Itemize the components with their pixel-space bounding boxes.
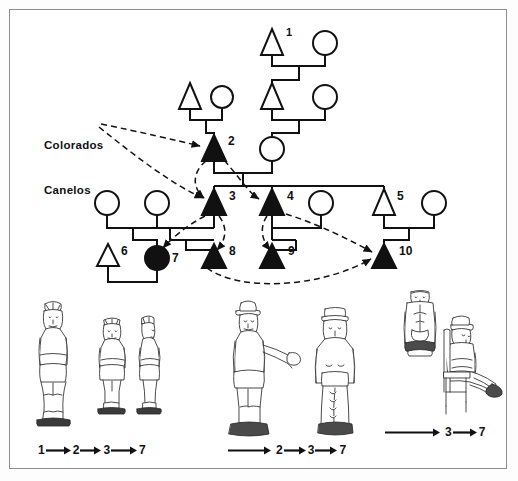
caption-arrow-icon bbox=[284, 445, 307, 456]
figurine-standing-male-hat-arm bbox=[229, 301, 301, 436]
figurine-illustrations bbox=[0, 0, 518, 481]
caption-3-token-0: 3 bbox=[445, 425, 452, 439]
figurine-standing-female-cap bbox=[315, 308, 355, 436]
caption-arrow-icon bbox=[453, 427, 478, 438]
caption-arrow-icon bbox=[80, 445, 102, 456]
caption-1-token-3: 7 bbox=[139, 443, 146, 457]
caption-2-token-2: 7 bbox=[339, 443, 346, 457]
caption-group-2: 2 3 7 bbox=[228, 443, 346, 457]
caption-3-token-1: 7 bbox=[479, 425, 486, 439]
figurine-standing-robed bbox=[404, 291, 436, 357]
caption-lead-arrow-icon bbox=[385, 427, 441, 438]
figurine-standing-female-front bbox=[98, 318, 126, 414]
caption-lead-arrow-icon bbox=[228, 445, 272, 456]
caption-1-token-1: 2 bbox=[73, 443, 80, 457]
caption-arrow-icon bbox=[315, 445, 338, 456]
caption-group-3: 3 7 bbox=[385, 425, 485, 439]
caption-2-token-1: 3 bbox=[308, 443, 315, 457]
figurine-standing-male-front bbox=[37, 302, 71, 427]
caption-arrow-icon bbox=[46, 445, 72, 456]
caption-2-token-0: 2 bbox=[276, 443, 283, 457]
figurine-seated-on-chair bbox=[444, 316, 502, 414]
caption-1-token-0: 1 bbox=[38, 443, 45, 457]
figurine-standing-female-profile bbox=[137, 316, 162, 414]
caption-1-token-2: 3 bbox=[103, 443, 110, 457]
caption-group-1: 1 2 3 7 bbox=[38, 443, 146, 457]
figure-page: 1 2 3 4 5 6 7 8 9 10 Colorados Canelos bbox=[0, 0, 518, 481]
caption-arrow-icon bbox=[111, 445, 138, 456]
